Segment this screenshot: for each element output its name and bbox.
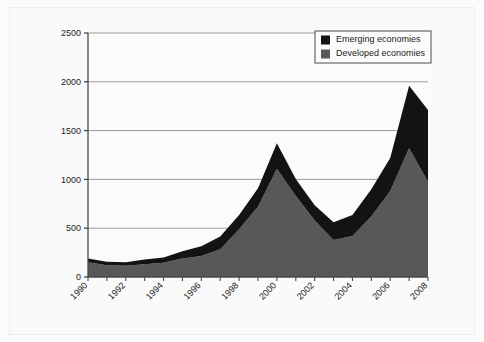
chart-figure: 0500100015002000250019901992199419961998… [0,0,484,342]
legend-label: Developed economies [336,48,426,58]
x-tick-label: 2000 [257,280,278,301]
x-tick-label: 1994 [144,280,165,301]
y-tick-label: 0 [76,272,81,282]
x-tick-label: 2004 [333,280,354,301]
y-axis-ticks: 05001000150020002500 [61,28,88,282]
x-axis-ticks: 1990199219941996199820002002200420062008 [68,277,429,302]
area-chart: 0500100015002000250019901992199419961998… [0,0,484,342]
x-tick-label: 1996 [182,280,203,301]
y-tick-label: 1500 [61,126,81,136]
x-tick-label: 2008 [408,280,429,301]
y-tick-label: 2500 [61,28,81,38]
x-tick-label: 2002 [295,280,316,301]
y-tick-label: 2000 [61,77,81,87]
x-tick-label: 1990 [68,280,89,301]
x-tick-label: 1992 [106,280,127,301]
y-tick-label: 500 [66,223,81,233]
legend: Emerging economiesDeveloped economies [315,31,431,63]
x-tick-label: 2006 [370,280,391,301]
x-tick-label: 1998 [219,280,240,301]
legend-swatch [321,50,330,59]
legend-swatch [321,36,330,45]
legend-label: Emerging economies [336,34,421,44]
y-tick-label: 1000 [61,175,81,185]
